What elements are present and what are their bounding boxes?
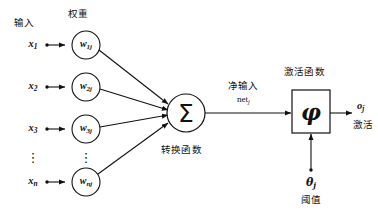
- neuron-diagram-canvas: 输入 权重 x1 x2 x3 xn ⋮ w1j w2j w3j wnj ⋮ Σ …: [0, 0, 378, 213]
- weight-subscript-3: 3j: [87, 127, 92, 135]
- threshold-dot: [309, 168, 312, 171]
- net-input-label: 净输入: [228, 81, 259, 91]
- input-label-3: x3: [29, 123, 38, 134]
- weight-symbol-n: w: [80, 175, 87, 186]
- input-label-n: xn: [28, 176, 37, 187]
- output-label: oj: [357, 101, 364, 112]
- transfer-function-label: 转换函数: [161, 145, 202, 155]
- threshold-symbol: θj: [306, 177, 316, 190]
- weight-symbol-1: w: [80, 38, 87, 49]
- weight-nodes: [72, 31, 100, 196]
- input-label-1: x1: [29, 39, 38, 50]
- edge-w1-sigma: [99, 50, 168, 104]
- edge-w2-sigma: [100, 89, 168, 110]
- weight-label-n: wnj: [80, 176, 93, 188]
- net-input-symbol-text: net: [237, 94, 248, 104]
- edge-w3-sigma: [100, 115, 168, 127]
- weight-column-header: 权重: [68, 9, 88, 19]
- net-input-symbol: netj: [237, 95, 250, 105]
- weight-subscript-1: 1j: [87, 43, 92, 51]
- input-subscript-1: 1: [34, 42, 38, 51]
- output-subscript: j: [362, 104, 364, 113]
- edge-wn-sigma: [98, 123, 168, 174]
- activation-output-label: 激活: [353, 120, 373, 130]
- weight-label-3: w3j: [80, 123, 92, 135]
- input-column-header: 输入: [14, 18, 34, 28]
- weight-symbol-2: w: [80, 80, 87, 91]
- activation-symbol: φ: [301, 101, 321, 123]
- weight-label-1: w1j: [80, 39, 92, 51]
- weight-to-summation-edges: [98, 50, 168, 174]
- input-label-2: x2: [29, 81, 38, 92]
- activation-function-header: 激活函数: [284, 67, 325, 77]
- summation-symbol: Σ: [178, 101, 194, 126]
- input-subscript-n: n: [34, 179, 38, 188]
- weight-symbol-3: w: [80, 122, 87, 133]
- input-column-ellipsis: ⋮: [27, 151, 40, 164]
- threshold-label: 阈值: [301, 195, 321, 205]
- weight-subscript-n: nj: [86, 180, 92, 188]
- threshold-subscript: j: [313, 181, 316, 190]
- weight-column-ellipsis: ⋮: [80, 151, 93, 164]
- input-connections: [45, 43, 65, 183]
- weight-subscript-2: 2j: [87, 85, 92, 93]
- weight-label-2: w2j: [80, 81, 92, 93]
- input-subscript-3: 3: [34, 126, 38, 135]
- input-subscript-2: 2: [34, 84, 38, 93]
- net-input-subscript: j: [248, 98, 250, 105]
